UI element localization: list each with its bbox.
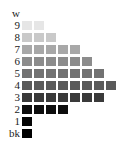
swatch (34, 93, 44, 102)
swatch (106, 81, 116, 90)
swatch (58, 81, 68, 90)
swatch (70, 57, 80, 66)
swatch (82, 93, 92, 102)
swatch (58, 45, 68, 54)
row-label: 7 (0, 44, 20, 54)
swatch (46, 81, 56, 90)
row-label: 9 (0, 20, 20, 30)
swatch (34, 57, 44, 66)
row-label: 6 (0, 56, 20, 66)
swatch (46, 33, 56, 42)
swatch (34, 105, 44, 114)
swatch (22, 117, 32, 126)
swatch (82, 57, 92, 66)
swatch (46, 57, 56, 66)
swatch (22, 69, 32, 78)
swatch (22, 105, 32, 114)
swatch (22, 81, 32, 90)
swatch (46, 45, 56, 54)
row-label: 1 (0, 116, 20, 126)
swatch (22, 21, 32, 30)
swatch (70, 69, 80, 78)
swatch (94, 93, 104, 102)
row-label: 3 (0, 92, 20, 102)
swatch (22, 129, 32, 138)
swatch (34, 45, 44, 54)
swatch (34, 81, 44, 90)
row-label: 5 (0, 68, 20, 78)
swatch (82, 69, 92, 78)
swatch (22, 93, 32, 102)
swatch (34, 69, 44, 78)
swatch (58, 105, 68, 114)
swatch (94, 69, 104, 78)
row-label: 8 (0, 32, 20, 42)
swatch (70, 93, 80, 102)
swatch (58, 69, 68, 78)
swatch (22, 57, 32, 66)
row-label: w (0, 8, 20, 18)
swatch (70, 81, 80, 90)
row-label: 2 (0, 104, 20, 114)
swatch (58, 57, 68, 66)
swatch (22, 33, 32, 42)
swatch (34, 21, 44, 30)
row-label: bk (0, 128, 20, 138)
swatch (70, 45, 80, 54)
swatch (94, 81, 104, 90)
swatch (46, 93, 56, 102)
swatch (58, 93, 68, 102)
swatch (34, 33, 44, 42)
row-label: 4 (0, 80, 20, 90)
swatch (46, 105, 56, 114)
swatch (22, 45, 32, 54)
swatch (82, 81, 92, 90)
swatch (46, 69, 56, 78)
